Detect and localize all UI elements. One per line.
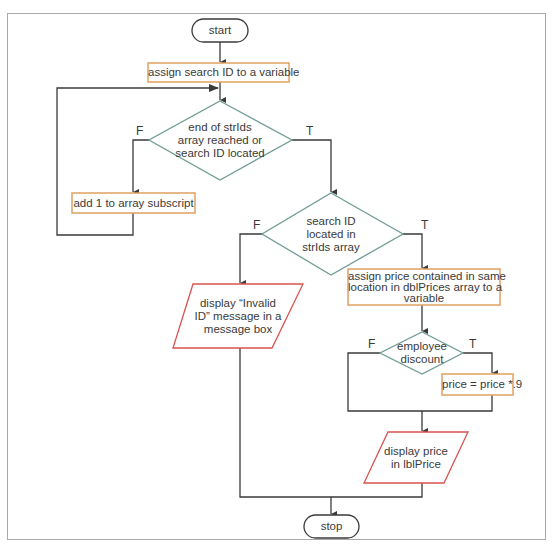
apply-discount-label: price = price *.9: [442, 378, 513, 391]
loop-check-line-1: end of strIds: [160, 121, 280, 134]
edge-loopcheck-true: [292, 140, 331, 192]
discount-false-label: F: [368, 337, 375, 351]
loop-check-false-label: F: [136, 124, 143, 138]
invalid-message-line-1: display “Invalid: [188, 297, 288, 310]
display-price-line-2: in lblPrice: [371, 458, 461, 471]
loop-check-line-2: array reached or: [160, 134, 280, 147]
discount-true-label: T: [469, 337, 476, 351]
id-located-false-label: F: [253, 218, 260, 232]
employee-discount-line-2: discount: [382, 353, 462, 366]
start-label: start: [192, 24, 248, 37]
id-located-true-label: T: [421, 218, 428, 232]
loop-check-true-label: T: [306, 124, 313, 138]
id-located-line-1: search ID: [281, 215, 381, 228]
edge-loopcheck-false: [133, 140, 149, 192]
add-subscript-label: add 1 to array subscript: [72, 197, 195, 210]
flowchart-canvas: start assign search ID to a variable end…: [0, 0, 553, 552]
edge-idlocated-false: [240, 234, 262, 283]
loop-check-line-3: search ID located: [160, 147, 280, 160]
stop-label: stop: [304, 520, 359, 533]
id-located-line-3: strIds array: [281, 241, 381, 254]
employee-discount-line-1: employee: [382, 340, 462, 353]
edge-discount-true: [463, 353, 492, 373]
assign-price-line-3: variable: [348, 292, 500, 305]
id-located-line-2: located in: [281, 228, 381, 241]
invalid-message-line-2: ID” message in a: [188, 310, 288, 323]
assign-search-id-label: assign search ID to a variable: [148, 66, 289, 79]
invalid-message-line-3: message box: [188, 323, 288, 336]
edge-idlocated-true: [403, 234, 422, 268]
display-price-line-1: display price: [371, 445, 461, 458]
